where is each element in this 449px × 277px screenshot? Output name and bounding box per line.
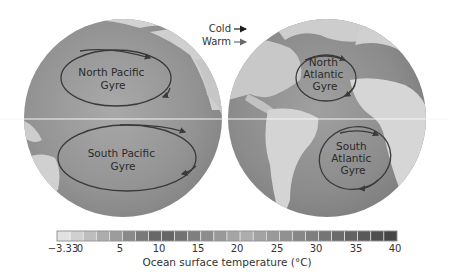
colorbar-tick-label: 40 xyxy=(389,243,402,254)
colorbar-cell xyxy=(175,231,188,241)
colorbar-cell xyxy=(122,231,135,241)
colorbar-tick-label: 20 xyxy=(231,243,244,254)
colorbar-cell xyxy=(266,231,279,241)
temperature-colorbar: −3.330510152025303540 Ocean surface temp… xyxy=(48,231,402,268)
colorbar-tick-label: 0 xyxy=(77,243,83,254)
colorbar-tick-label: 30 xyxy=(310,243,323,254)
colorbar-cell xyxy=(70,231,83,241)
colorbar-cell xyxy=(57,231,70,241)
colorbar-cell xyxy=(162,231,175,241)
colorbar-cell xyxy=(227,231,240,241)
colorbar-cell xyxy=(83,231,96,241)
colorbar-cell xyxy=(332,231,345,241)
colorbar-cell xyxy=(345,231,358,241)
current-legend: Cold Warm xyxy=(202,23,246,47)
colorbar-tick-label: 35 xyxy=(350,243,363,254)
colorbar-cell xyxy=(201,231,214,241)
colorbar-tick-label: −3.33 xyxy=(48,243,79,254)
pacific-globe: North Pacific Gyre South Pacific Gyre xyxy=(22,0,230,230)
colorbar-cell xyxy=(371,231,384,241)
colorbar-cell xyxy=(214,231,227,241)
colorbar-tick-label: 25 xyxy=(271,243,284,254)
colorbar-label: Ocean surface temperature (°C) xyxy=(142,256,311,268)
colorbar-tick-label: 15 xyxy=(192,243,205,254)
colorbar-cell xyxy=(305,231,318,241)
colorbar-cell xyxy=(384,231,397,241)
colorbar-cell xyxy=(188,231,201,241)
colorbar-tick-label: 10 xyxy=(153,243,166,254)
colorbar-cell xyxy=(319,231,332,241)
colorbar-cell xyxy=(149,231,162,241)
colorbar-cell xyxy=(292,231,305,241)
colorbar-cell xyxy=(253,231,266,241)
legend-warm-label: Warm xyxy=(202,36,231,47)
colorbar-cell xyxy=(135,231,148,241)
colorbar-cell xyxy=(96,231,109,241)
atlantic-globe: North Atlantic Gyre South Atlantic Gyre xyxy=(228,15,430,218)
colorbar-cell xyxy=(109,231,122,241)
colorbar-cell xyxy=(240,231,253,241)
colorbar-cell xyxy=(358,231,371,241)
colorbar-cell xyxy=(279,231,292,241)
ocean-gyres-figure: North Pacific Gyre South Pacific Gyre xyxy=(0,0,449,277)
legend-cold-label: Cold xyxy=(209,23,231,34)
colorbar-tick-label: 5 xyxy=(117,243,123,254)
